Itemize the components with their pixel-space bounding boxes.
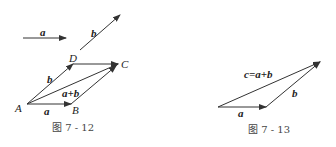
point-B-label: B bbox=[72, 104, 79, 116]
caption-7-12: 图 7 - 12 bbox=[52, 122, 94, 133]
point-C-label: C bbox=[121, 58, 129, 70]
figure-7-12: a b A B C D a b a+b 图 7 - 12 bbox=[14, 15, 129, 133]
vector-c-label: c=a+b bbox=[244, 68, 273, 80]
vector-a-label: a bbox=[238, 107, 244, 119]
point-A-label: A bbox=[14, 102, 22, 114]
vector-b-label: b bbox=[292, 87, 298, 99]
edge-AD-label: b bbox=[47, 73, 53, 85]
free-vector-b-label: b bbox=[91, 27, 97, 39]
free-vector-b bbox=[80, 15, 120, 50]
edge-AB-label: a bbox=[44, 105, 50, 117]
vector-addition-diagrams: a b A B C D a b a+b 图 7 - 12 a b c=a+b 图… bbox=[0, 0, 336, 147]
vector-b bbox=[266, 62, 320, 107]
edge-AC-label: a+b bbox=[62, 87, 80, 99]
caption-7-13: 图 7 - 13 bbox=[248, 124, 290, 135]
point-D-label: D bbox=[68, 52, 77, 64]
free-vector-a-label: a bbox=[40, 26, 46, 38]
figure-7-13: a b c=a+b 图 7 - 13 bbox=[218, 62, 320, 135]
